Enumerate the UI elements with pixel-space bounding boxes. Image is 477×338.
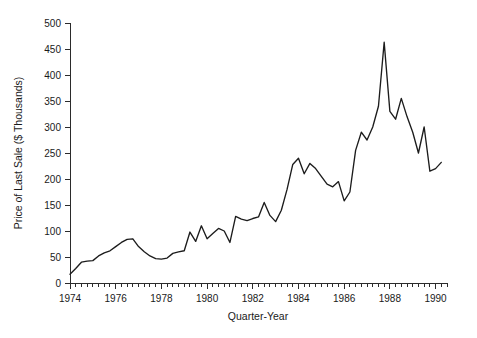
x-tick-label: 1984 <box>287 293 310 304</box>
x-axis-title: Quarter-Year <box>228 310 289 322</box>
y-tick-label: 300 <box>44 122 61 133</box>
x-tick-label: 1982 <box>242 293 265 304</box>
y-tick-label: 150 <box>44 200 61 211</box>
series-line-0 <box>70 42 441 274</box>
line-chart: 050100150200250300350400450500 197419761… <box>0 0 477 338</box>
chart-container: 050100150200250300350400450500 197419761… <box>0 0 477 338</box>
y-axis: 050100150200250300350400450500 <box>44 18 70 289</box>
y-tick-label: 350 <box>44 96 61 107</box>
data-series-group <box>70 42 441 274</box>
x-tick-label: 1988 <box>379 293 402 304</box>
x-tick-label: 1974 <box>59 293 82 304</box>
y-axis-title: Price of Last Sale ($ Thousands) <box>12 77 24 230</box>
x-tick-label: 1986 <box>333 293 356 304</box>
y-tick-label: 500 <box>44 18 61 29</box>
x-tick-label: 1976 <box>105 293 128 304</box>
x-tick-label: 1980 <box>196 293 219 304</box>
x-axis: 197419761978198019821984198619881990 <box>59 283 447 304</box>
y-tick-label: 0 <box>55 278 61 289</box>
y-tick-label: 200 <box>44 174 61 185</box>
y-tick-label: 250 <box>44 148 61 159</box>
y-tick-label: 50 <box>50 252 62 263</box>
y-tick-label: 400 <box>44 70 61 81</box>
x-tick-label: 1990 <box>424 293 447 304</box>
y-tick-label: 100 <box>44 226 61 237</box>
x-tick-label: 1978 <box>150 293 173 304</box>
y-tick-label: 450 <box>44 44 61 55</box>
